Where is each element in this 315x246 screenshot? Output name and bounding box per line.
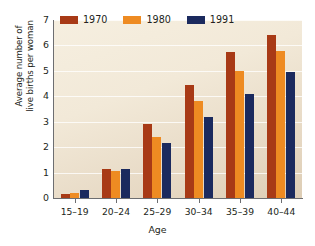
bar-group xyxy=(267,20,295,198)
bar xyxy=(276,51,285,198)
y-tick-label: 3 xyxy=(33,117,49,126)
x-axis-line xyxy=(53,198,303,199)
bar xyxy=(102,169,111,198)
bar xyxy=(61,194,70,198)
x-tick-mark xyxy=(199,199,200,203)
bar xyxy=(80,190,89,198)
bar-group xyxy=(143,20,171,198)
legend-label: 1980 xyxy=(146,15,170,25)
bar-group xyxy=(102,20,130,198)
x-tick-label: 25–29 xyxy=(134,206,180,217)
legend-item: 1980 xyxy=(123,15,170,25)
legend-label: 1970 xyxy=(83,15,107,25)
bar-group xyxy=(61,20,89,198)
y-tick-label: 1 xyxy=(33,168,49,177)
bar-group xyxy=(226,20,254,198)
legend-swatch xyxy=(123,16,141,24)
x-tick-label: 40–44 xyxy=(258,206,304,217)
bar xyxy=(185,85,194,198)
legend-item: 1970 xyxy=(60,15,107,25)
bar-group xyxy=(185,20,213,198)
legend-swatch xyxy=(60,16,78,24)
bar xyxy=(152,137,161,198)
y-tick-label: 7 xyxy=(33,15,49,24)
x-tick-label: 15–19 xyxy=(52,206,98,217)
y-tick-label: 4 xyxy=(33,92,49,101)
y-tick-label: 6 xyxy=(33,41,49,50)
bar xyxy=(226,52,235,198)
bar xyxy=(267,35,276,198)
bar xyxy=(111,171,120,198)
y-tick-label: 2 xyxy=(33,142,49,151)
x-tick-mark xyxy=(116,199,117,203)
bar xyxy=(121,169,130,198)
y-axis-tick-labels: 01234567 xyxy=(33,0,49,246)
legend-label: 1991 xyxy=(210,15,234,25)
bar xyxy=(286,72,295,198)
x-tick-label: 30–34 xyxy=(176,206,222,217)
bar xyxy=(204,117,213,198)
bar xyxy=(194,101,203,198)
bar-series-layer xyxy=(54,20,302,198)
bar xyxy=(70,193,79,198)
x-tick-label: 20–24 xyxy=(93,206,139,217)
y-tick-label: 0 xyxy=(33,193,49,202)
legend-item: 1991 xyxy=(187,15,234,25)
bar xyxy=(245,94,254,198)
legend-swatch xyxy=(187,16,205,24)
bar xyxy=(162,143,171,198)
bar xyxy=(143,124,152,198)
x-tick-mark xyxy=(157,199,158,203)
bar xyxy=(235,71,244,198)
x-tick-label: 35–39 xyxy=(217,206,263,217)
bar-chart-figure: Average number of live births per woman … xyxy=(0,0,315,246)
x-axis-title: Age xyxy=(0,224,315,235)
y-tick-label: 5 xyxy=(33,66,49,75)
plot-area xyxy=(54,20,302,198)
chart-legend: 197019801991 xyxy=(60,15,234,25)
x-tick-mark xyxy=(75,199,76,203)
x-tick-mark xyxy=(281,199,282,203)
x-tick-mark xyxy=(240,199,241,203)
